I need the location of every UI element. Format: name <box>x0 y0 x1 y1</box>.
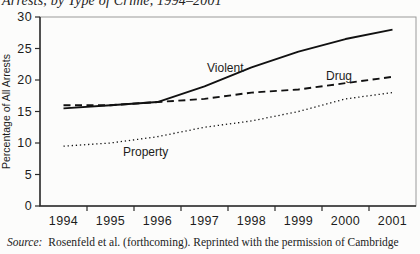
x-tick-label: 2000 <box>331 214 360 228</box>
y-tick-label: 30 <box>17 10 32 24</box>
x-tick-label: 1996 <box>143 214 172 228</box>
y-tick-label: 5 <box>25 168 32 182</box>
series-label-drug: Drug <box>326 69 352 83</box>
x-tick-label: 1997 <box>190 214 219 228</box>
y-tick-label: 25 <box>17 42 32 56</box>
y-tick-label: 20 <box>17 73 32 87</box>
y-tick-label: 15 <box>17 105 32 119</box>
series-label-violent: Violent <box>207 61 244 75</box>
x-tick-label: 1995 <box>96 214 125 228</box>
series-label-property: Property <box>123 145 168 159</box>
axes <box>40 17 416 206</box>
line-chart: 0510152025301994199519961997199819992000… <box>0 0 420 254</box>
source-label: Source: <box>7 236 42 248</box>
source-text: Rosenfeld et al. (forthcoming). Reprinte… <box>48 236 398 248</box>
y-tick-label: 10 <box>17 136 32 150</box>
x-tick-label: 1994 <box>49 214 78 228</box>
series-line-property <box>64 93 393 147</box>
source-note: Source:Rosenfeld et al. (forthcoming). R… <box>7 236 417 248</box>
x-tick-label: 1998 <box>237 214 266 228</box>
y-tick-label: 0 <box>25 199 32 213</box>
x-tick-label: 1999 <box>284 214 313 228</box>
y-axis-title: Percentage of All Arrests <box>0 54 12 169</box>
plot-frame <box>40 17 416 206</box>
x-tick-label: 2001 <box>378 214 407 228</box>
